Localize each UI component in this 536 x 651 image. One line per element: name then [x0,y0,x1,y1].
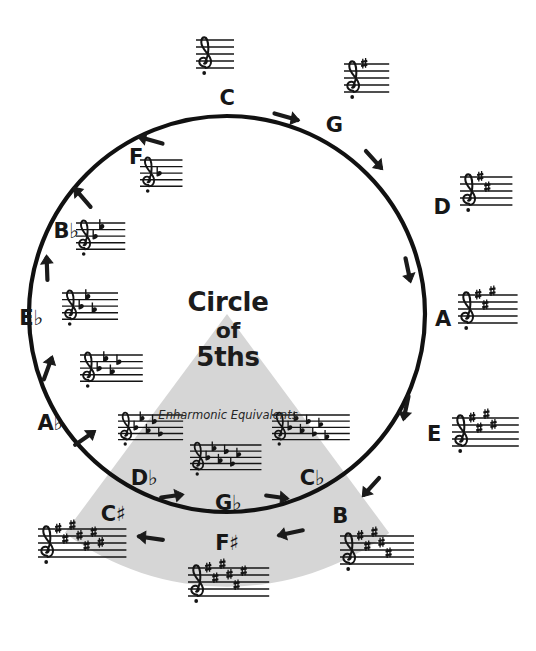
arrow-ccw-3 [41,255,54,280]
treble-clef-icon [461,292,473,323]
treble-clef-icon [121,413,131,440]
key-label-B-flat: B♭ [54,221,79,242]
flat-icon [319,418,323,428]
flat-icon [97,361,102,371]
flat-icon [92,302,97,312]
key-label-F-sharp: F♯ [215,533,239,554]
flat-icon [93,229,98,239]
key-label-G-flat: G♭ [215,493,241,514]
key-label-D: D [434,197,451,218]
key-label-C: C [220,88,235,109]
treble-clef-icon [79,221,90,250]
title-line-1: Circle [188,288,269,318]
key-label-A: A [435,309,451,330]
key-label-F: F [129,147,143,168]
staff-A-major [458,286,518,330]
title-line-3: 5ths [188,343,269,373]
page-title: Circle of 5ths [188,288,269,372]
staff-D-major [460,171,512,212]
arrow-ccw-5 [72,426,99,450]
staff-E-flat-major [62,289,118,325]
flat-icon [134,421,138,431]
key-label-E-flat: E♭ [19,308,42,329]
flat-icon [117,355,122,365]
flat-icon [100,219,105,229]
treble-clef-icon [83,353,94,382]
treble-clef-icon [347,61,359,92]
key-label-G: G [326,115,343,136]
treble-clef-icon [143,158,154,187]
key-label-E: E [427,424,441,445]
flat-icon [140,412,144,422]
staff-A-flat-major [80,351,143,387]
treble-clef-icon [463,174,475,205]
treble-clef-icon [65,291,76,320]
treble-clef-icon [199,37,211,68]
key-label-D-flat: D♭ [131,468,157,489]
arrow-ccw-10 [400,257,417,284]
enharmonic-caption: Enharmonic Equivalents [158,408,297,422]
flat-icon [307,415,311,425]
staff-F-major [140,158,182,193]
flat-icon [157,166,162,176]
circle-of-fifths-figure: C G D A E B F♯ C♯ A♭ E♭ B♭ F D♭ G♭ C♭ Ci… [0,0,536,651]
treble-clef-icon [41,526,53,557]
flat-icon [104,351,109,361]
flat-icon [79,299,84,309]
key-label-A-flat: A♭ [37,413,62,434]
flat-icon [86,289,91,299]
treble-clef-icon [455,415,467,446]
staff-E-major [452,409,519,453]
flat-icon [325,430,329,440]
staff-G-major [344,58,389,99]
key-label-C-sharp: C♯ [101,504,126,525]
key-label-B: B [332,506,348,527]
staff-B-flat-major [76,219,125,255]
title-line-2: of [188,317,269,342]
staff-C-major [196,37,234,75]
key-label-C-flat: C♭ [300,468,324,489]
flat-icon [110,364,115,374]
